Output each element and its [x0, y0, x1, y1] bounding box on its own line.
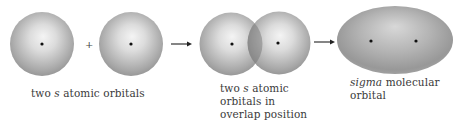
arrow-icon — [314, 40, 335, 45]
nucleus-dot — [230, 42, 233, 45]
nucleus-dot — [414, 39, 417, 42]
nucleus-dot — [129, 42, 132, 45]
plus-sign: + — [85, 39, 93, 50]
s-orbital-left — [10, 12, 74, 76]
label-overlap-position: two s atomic orbitals in overlap positio… — [220, 82, 307, 121]
label-two-s-atomic-orbitals: two s atomic orbitals — [31, 87, 145, 100]
overlapping-orbitals — [200, 12, 311, 76]
nucleus-dot — [40, 42, 43, 45]
nucleus-dot — [369, 39, 372, 42]
arrow-icon — [171, 42, 192, 47]
sigma-molecular-orbital — [337, 6, 453, 74]
label-sigma-molecular-orbital: sigma molecular orbital — [350, 76, 440, 102]
nucleus-dot — [276, 41, 279, 44]
s-orbital-right — [99, 12, 163, 76]
